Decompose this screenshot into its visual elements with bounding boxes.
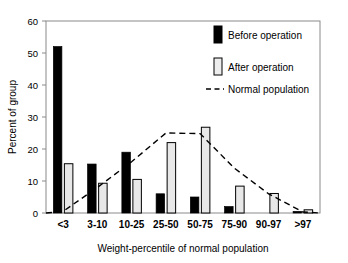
legend-label-before-operation: Before operation [228,30,302,41]
y-tick-label: 0 [33,208,38,219]
bar-before-operation [225,207,234,213]
bar-after-operation [133,179,142,213]
bar-after-operation [236,186,245,213]
bar-before-operation [53,47,62,213]
x-tick-label: >97 [294,219,311,230]
bar-before-operation [190,197,199,213]
x-tick-label: 75-90 [222,219,248,230]
legend-swatch-before-operation [214,26,222,43]
chart-figure: 0102030405060 Percent of group <33-1010-… [0,0,348,263]
x-tick-label: 25-50 [153,219,179,230]
bar-after-operation [99,183,108,213]
legend-label-normal-population: Normal population [228,84,309,95]
y-tick-label: 30 [27,112,38,123]
y-axis-title: Percent of group [7,80,18,154]
y-tick-label: 20 [27,144,38,155]
x-tick-label: 90-97 [256,219,282,230]
x-tick-label: 10-25 [119,219,145,230]
bar-before-operation [122,152,131,213]
y-tick-label: 10 [27,176,38,187]
bar-after-operation [167,143,176,213]
bar-after-operation [201,127,210,213]
x-tick-label: <3 [57,219,69,230]
x-tick-label: 50-75 [187,219,213,230]
y-tick-label: 50 [27,48,38,59]
bar-before-operation [293,211,302,213]
percent-of-group-bar-chart: 0102030405060 Percent of group <33-1010-… [0,0,348,263]
y-tick-label: 60 [27,16,38,27]
legend-label-after-operation: After operation [228,62,294,73]
x-axis-title: Weight-percentile of normal population [97,243,268,254]
x-tick-label: 3-10 [87,219,107,230]
bar-after-operation [270,193,279,213]
y-tick-label: 40 [27,80,38,91]
bar-before-operation [88,164,97,213]
bar-after-operation [64,164,73,213]
legend-swatch-after-operation [214,58,222,75]
bar-before-operation [156,194,165,213]
